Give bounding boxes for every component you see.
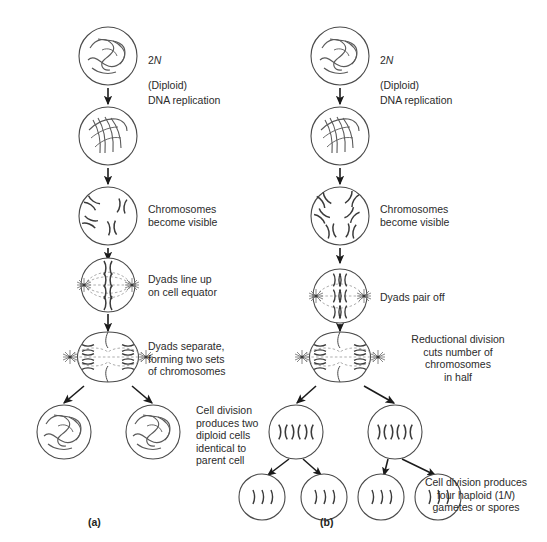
label-2n-text: 2N: [148, 54, 161, 66]
arrow-meiosis-branch-left: [297, 386, 316, 403]
label-diploid-text: (Diploid): [148, 79, 187, 91]
panel-mitosis: [37, 27, 180, 459]
arrow-meiosis-branch-right: [364, 386, 394, 403]
diagram-canvas: [0, 0, 547, 542]
cell-meiosis-secondary-right: [368, 405, 422, 459]
label-2n-text: 2N: [380, 54, 393, 66]
cell-gamete-3: [358, 474, 404, 520]
label-mitosis-chromosomes-visible: Chromosomes become visible: [148, 203, 217, 228]
cell-meiosis-metaphase-one: [309, 269, 371, 323]
arrow-gamete-1: [268, 459, 289, 475]
cell-mitosis-anaphase: [63, 332, 153, 382]
label-meiosis-diploid: 2N (Diploid): [380, 41, 419, 91]
cell-mitosis-daughter-right: [126, 405, 180, 459]
arrow-mitosis-branch-right: [132, 386, 152, 403]
arrow-gamete-3: [384, 459, 388, 475]
label-meiosis-chromosomes-visible: Chromosomes become visible: [380, 203, 449, 228]
label-mitosis-diploid: 2N (Diploid): [148, 41, 187, 91]
cell-mitosis-prophase: [79, 187, 137, 245]
cell-meiosis-anaphase-one: [295, 332, 385, 382]
cell-mitosis-metaphase: [77, 258, 139, 312]
label-meiosis-reductional-division: Reductional division cuts number of chro…: [378, 333, 538, 383]
panel-tag-b: (b): [320, 516, 333, 528]
label-mitosis-two-diploid-cells: Cell division produces two diploid cells…: [196, 404, 258, 467]
arrow-mitosis-branch-left: [64, 386, 84, 403]
arrow-gamete-4: [402, 459, 435, 475]
label-meiosis-four-haploid: Cell division producesfour haploid (1N)g…: [406, 476, 546, 514]
cell-mitosis-replicated: [79, 107, 137, 165]
cell-meiosis-secondary-left: [269, 405, 323, 459]
cell-gamete-1: [239, 474, 285, 520]
cell-gamete-2: [301, 474, 347, 520]
cell-meiosis-interphase: [311, 27, 369, 85]
arrow-gamete-2: [303, 459, 321, 475]
label-meiosis-dyads-pair-off: Dyads pair off: [380, 291, 445, 304]
label-mitosis-dyads-line-up: Dyads line up on cell equator: [148, 273, 217, 298]
cell-meiosis-prophase: [311, 187, 369, 245]
cell-mitosis-interphase: [79, 27, 137, 85]
panel-tag-a: (a): [88, 516, 101, 528]
mitosis-meiosis-figure: 2N (Diploid) DNA replication Chromosomes…: [0, 0, 547, 542]
label-mitosis-dna-replication: DNA replication: [148, 94, 220, 107]
label-mitosis-dyads-separate: Dyads separate, forming two sets of chro…: [148, 340, 226, 378]
cell-mitosis-daughter-left: [37, 405, 91, 459]
cell-meiosis-replicated: [311, 107, 369, 165]
label-diploid-text: (Diploid): [380, 79, 419, 91]
label-meiosis-dna-replication: DNA replication: [380, 94, 452, 107]
